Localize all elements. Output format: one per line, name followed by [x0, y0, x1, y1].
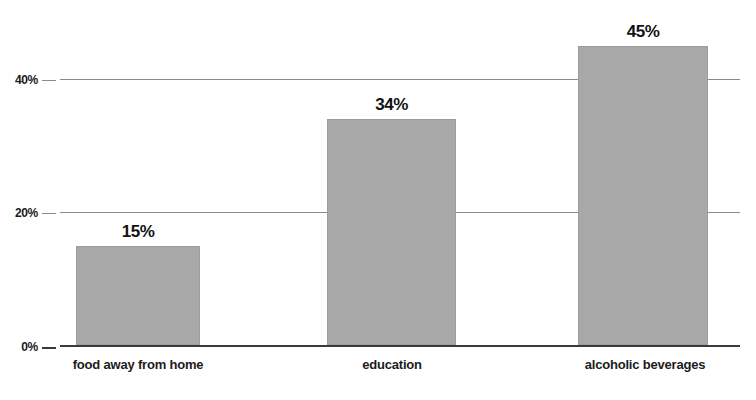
bar-value-label: 15%: [122, 222, 155, 242]
xtick-label-education: education: [362, 357, 422, 372]
ytick-stub-0: [42, 347, 56, 349]
ytick-stub-40: [42, 80, 56, 81]
axis-baseline: 0%: [60, 345, 740, 347]
bar-food-away-from-home[interactable]: 15%: [76, 246, 200, 345]
xtick-label-alcoholic-beverages: alcoholic beverages: [585, 357, 705, 372]
ytick-stub-20: [42, 213, 56, 214]
plot-area: 40% 20% 0% 15% 34% 45%: [60, 40, 740, 345]
ytick-label-40: 40%: [15, 73, 38, 87]
xtick-label-food-away-from-home: food away from home: [73, 357, 204, 372]
bar-chart: 40% 20% 0% 15% 34% 45% food away from ho…: [0, 0, 756, 400]
bar-education[interactable]: 34%: [327, 119, 456, 345]
ytick-label-0: 0%: [21, 340, 38, 354]
bar-alcoholic-beverages[interactable]: 45%: [578, 46, 708, 345]
bar-value-label: 34%: [375, 95, 408, 115]
bar-value-label: 45%: [627, 22, 660, 42]
ytick-label-20: 20%: [15, 206, 38, 220]
